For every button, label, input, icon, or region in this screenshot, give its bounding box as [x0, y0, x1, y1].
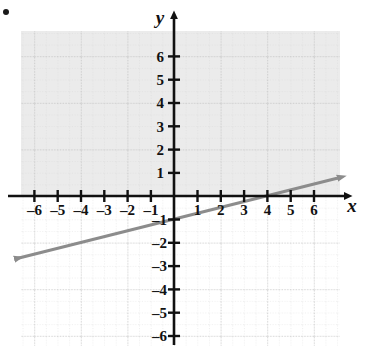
y-tick-label: –3 — [151, 258, 167, 274]
x-tick-label: –3 — [96, 202, 112, 218]
y-tick-label: –5 — [151, 305, 167, 321]
y-axis-label: y — [154, 7, 165, 28]
y-tick-label: 5 — [157, 72, 165, 88]
y-tick-label: –1 — [151, 212, 167, 228]
y-tick-label: –6 — [151, 328, 168, 344]
x-tick-label: –4 — [73, 202, 90, 218]
bullet-marker-icon — [3, 9, 9, 15]
x-tick-label: 3 — [240, 202, 248, 218]
x-tick-label: –5 — [49, 202, 65, 218]
x-tick-label: –2 — [119, 202, 135, 218]
x-tick-label: 6 — [310, 202, 318, 218]
coordinate-plane-figure: –6 –5 –4 –3 –2 –1 1 2 3 4 5 6 6 5 4 3 2 … — [0, 0, 365, 348]
y-tick-label: –4 — [151, 282, 168, 298]
x-tick-label: 4 — [264, 202, 272, 218]
y-tick-label: 1 — [157, 165, 165, 181]
y-tick-label: –2 — [151, 235, 167, 251]
y-tick-label: 4 — [157, 95, 165, 111]
x-axis-label: x — [346, 195, 357, 216]
x-tick-label: 1 — [194, 202, 202, 218]
graph-canvas: –6 –5 –4 –3 –2 –1 1 2 3 4 5 6 6 5 4 3 2 … — [0, 0, 365, 348]
x-tick-label: 2 — [217, 202, 225, 218]
x-tick-label: 5 — [287, 202, 295, 218]
y-tick-label: 6 — [157, 49, 165, 65]
y-tick-label: 3 — [157, 119, 165, 135]
x-tick-label: –6 — [26, 202, 43, 218]
y-tick-label: 2 — [157, 142, 165, 158]
